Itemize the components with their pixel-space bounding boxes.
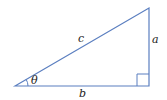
angle-arc (26, 80, 28, 87)
side-b-label: b (79, 87, 86, 100)
angle-theta-label: θ (31, 74, 38, 87)
right-angle-marker (137, 74, 149, 86)
right-triangle-diagram: c a b θ (0, 0, 167, 100)
side-a-label: a (152, 33, 159, 46)
hypotenuse-label: c (78, 32, 84, 45)
